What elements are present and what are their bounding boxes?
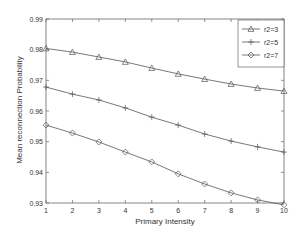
plus-marker-icon	[43, 84, 49, 90]
x-tick-label: 9	[256, 207, 260, 214]
series-line	[46, 87, 284, 152]
plus-marker-icon	[228, 138, 234, 144]
legend-label: r2=5	[264, 39, 278, 46]
y-tick-label: 0.98	[29, 46, 43, 53]
plus-marker-icon	[122, 105, 128, 111]
x-axis-label: Primary Intensity	[135, 217, 195, 226]
series-group	[43, 45, 287, 207]
series-line	[46, 125, 284, 205]
y-tick-label: 0.93	[29, 200, 43, 207]
plus-marker-icon	[255, 144, 261, 150]
plus-marker-icon	[281, 149, 287, 155]
series-r2-5	[43, 84, 287, 155]
y-tick-label: 0.96	[29, 108, 43, 115]
plus-marker-icon	[69, 91, 75, 97]
line-chart: 123456789100.930.940.950.960.970.980.99 …	[0, 0, 303, 235]
plus-marker-icon	[202, 131, 208, 137]
y-tick-label: 0.95	[29, 138, 43, 145]
x-tick-label: 2	[70, 207, 74, 214]
plus-marker-icon	[149, 114, 155, 120]
y-tick-label: 0.97	[29, 77, 43, 84]
legend-label: r2=3	[264, 26, 278, 33]
legend-label: r2=7	[264, 52, 278, 59]
x-tick-label: 4	[123, 207, 127, 214]
plus-marker-icon	[96, 97, 102, 103]
plus-marker-icon	[175, 122, 181, 128]
y-tick-label: 0.94	[29, 169, 43, 176]
y-axis-label: Mean reconnection Probability	[15, 56, 24, 164]
x-tick-label: 1	[44, 207, 48, 214]
x-tick-label: 8	[229, 207, 233, 214]
y-tick-label: 0.99	[29, 16, 43, 23]
legend: r2=3r2=5r2=7	[238, 20, 284, 67]
x-tick-label: 7	[203, 207, 207, 214]
x-tick-label: 3	[97, 207, 101, 214]
series-r2-7	[43, 122, 287, 208]
x-tick-label: 5	[150, 207, 154, 214]
x-tick-label: 6	[176, 207, 180, 214]
